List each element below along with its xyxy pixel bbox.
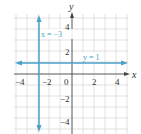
- tick-x-2: 2: [92, 77, 97, 87]
- label-x-equals-neg3: x = −3: [41, 30, 62, 39]
- label-y-equals-1: y = 1: [83, 53, 100, 62]
- tick-x-neg2: −2: [42, 77, 52, 87]
- coordinate-plane: x = −3 y = 1 y x −4 −2 0 2 4 4 2 −2 −4: [0, 0, 141, 134]
- tick-x-0: 0: [64, 77, 69, 87]
- tick-x-4: 4: [115, 77, 120, 87]
- line-y-equals-1: [15, 61, 128, 66]
- tick-y-neg4: −4: [60, 117, 70, 127]
- tick-x-neg4: −4: [15, 77, 25, 87]
- arrow-up-icon: [37, 15, 42, 22]
- y-axis-arrow-icon: [70, 12, 74, 18]
- tick-y-2: 2: [65, 47, 70, 57]
- arrow-down-icon: [37, 125, 42, 132]
- x-axis-label: x: [131, 69, 137, 80]
- tick-y-neg2: −2: [60, 94, 70, 104]
- y-axis-label: y: [68, 1, 74, 12]
- tick-y-4: 4: [65, 22, 70, 32]
